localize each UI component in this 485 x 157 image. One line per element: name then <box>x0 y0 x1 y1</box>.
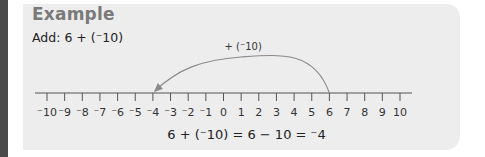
tick-label: ⁻1 <box>199 106 212 119</box>
tick-label: 8 <box>361 106 368 119</box>
tick-label: 1 <box>238 106 245 119</box>
tick-label: ⁻6 <box>111 106 124 119</box>
tick-label: 6 <box>326 106 333 119</box>
tick-label: 9 <box>379 106 386 119</box>
jump-label: + (⁻10) <box>224 41 261 52</box>
jump-arc <box>155 55 330 93</box>
tick-label: ⁻5 <box>129 106 142 119</box>
tick-label: ⁻8 <box>76 106 89 119</box>
tick-label: 2 <box>255 106 262 119</box>
result-equation: 6 + (⁻10) = 6 − 10 = ⁻4 <box>0 127 485 142</box>
tick-label: 4 <box>291 106 298 119</box>
tick-label: 5 <box>308 106 315 119</box>
tick-label: ⁻10 <box>37 106 57 119</box>
tick-label: 3 <box>273 106 280 119</box>
tick-label: ⁻2 <box>182 106 195 119</box>
tick-label: 0 <box>220 106 227 119</box>
tick-label: 10 <box>393 106 407 119</box>
number-line-labels: ⁻10⁻9⁻8⁻7⁻6⁻5⁻4⁻3⁻2⁻1012345678910 <box>37 106 407 119</box>
tick-label: ⁻7 <box>94 106 107 119</box>
tick-label: ⁻4 <box>146 106 159 119</box>
tick-label: 7 <box>344 106 351 119</box>
tick-label: ⁻3 <box>164 106 177 119</box>
tick-label: ⁻9 <box>58 106 71 119</box>
number-line-ticks <box>47 93 400 101</box>
